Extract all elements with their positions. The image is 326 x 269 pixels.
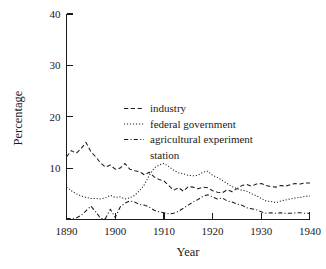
chart-page: 10203040 189019001910192019301940 indust…: [0, 0, 326, 269]
y-axis-label: Percentage: [11, 90, 25, 145]
series-line-federal-government: [67, 164, 311, 203]
y-tick-label: 40: [50, 8, 62, 20]
legend-label-industry: industry: [150, 102, 187, 114]
y-tick-label: 20: [50, 111, 62, 123]
legend-label-agricultural-experiment: agricultural experiment: [150, 133, 253, 145]
x-tick-label: 1900: [104, 225, 127, 237]
x-axis-tick-labels: 189019001910192019301940: [56, 225, 322, 237]
x-tick-label: 1930: [250, 225, 273, 237]
x-axis-ticks: [115, 213, 261, 220]
legend-label-federal-government: federal government: [150, 118, 236, 130]
legend-label-station: station: [150, 149, 180, 161]
x-tick-label: 1910: [153, 225, 176, 237]
series-line-industry: [67, 142, 311, 192]
y-axis-ticks: [67, 14, 74, 168]
y-tick-label: 10: [50, 162, 62, 174]
y-axis-tick-labels: 10203040: [50, 8, 62, 174]
x-tick-label: 1940: [299, 225, 322, 237]
series-group: [67, 142, 311, 218]
x-tick-label: 1920: [202, 225, 225, 237]
y-tick-label: 30: [50, 59, 62, 71]
x-tick-label: 1890: [56, 225, 79, 237]
line-chart: 10203040 189019001910192019301940 indust…: [0, 0, 326, 269]
chart-legend: industryfederal governmentagricultural e…: [124, 102, 253, 161]
x-axis-label: Year: [176, 245, 200, 259]
